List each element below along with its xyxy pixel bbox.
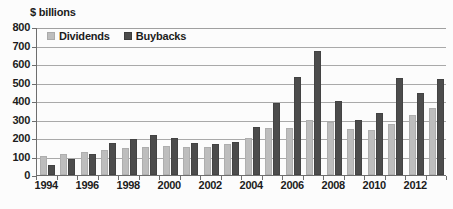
- plot-area: [36, 28, 446, 176]
- x-tick-label-2002: 2002: [194, 179, 226, 191]
- x-tick-mark-1995: [57, 176, 58, 180]
- x-tick-label-2010: 2010: [358, 179, 390, 191]
- bar-group-2006: [286, 28, 301, 175]
- bar-buybacks-2003: [232, 142, 239, 175]
- bar-buybacks-2007: [314, 51, 321, 175]
- y-axis-unit-label: $ billions: [30, 6, 76, 18]
- bar-buybacks-2013: [437, 79, 444, 175]
- y-tick-label-500: 500: [2, 77, 30, 89]
- legend-label-dividends: Dividends: [59, 30, 110, 42]
- y-tick-label-200: 200: [2, 132, 30, 144]
- x-tick-label-1998: 1998: [112, 179, 144, 191]
- x-tick-mark-1999: [139, 176, 140, 180]
- bar-buybacks-2002: [212, 144, 219, 175]
- bar-buybacks-1999: [150, 135, 157, 175]
- bar-group-2007: [306, 28, 321, 175]
- bar-buybacks-2006: [294, 77, 301, 175]
- bar-buybacks-2004: [253, 127, 260, 175]
- bar-dividends-2011: [388, 124, 395, 175]
- bar-buybacks-1994: [48, 165, 55, 175]
- legend-item-buybacks: Buybacks: [124, 30, 186, 42]
- y-tick-mark-500: [32, 84, 36, 85]
- bar-buybacks-2001: [191, 143, 198, 175]
- x-tick-mark-2013: [426, 176, 427, 180]
- y-tick-label-300: 300: [2, 114, 30, 126]
- y-tick-mark-700: [32, 47, 36, 48]
- x-tick-label-2000: 2000: [153, 179, 185, 191]
- bar-dividends-1999: [142, 147, 149, 175]
- bar-buybacks-1996: [89, 154, 96, 175]
- x-tick-label-2012: 2012: [399, 179, 431, 191]
- chart-root: $ billions 0100200300400500600700800 199…: [0, 0, 453, 209]
- bar-buybacks-2012: [417, 93, 424, 175]
- bar-buybacks-2000: [171, 138, 178, 175]
- bar-group-2004: [245, 28, 260, 175]
- bar-dividends-2007: [306, 120, 313, 176]
- y-tick-mark-100: [32, 158, 36, 159]
- bar-dividends-2006: [286, 128, 293, 175]
- bar-group-2001: [183, 28, 198, 175]
- bar-dividends-2008: [327, 122, 334, 175]
- bar-group-1995: [60, 28, 75, 175]
- bar-group-2010: [368, 28, 383, 175]
- bar-buybacks-1997: [109, 143, 116, 175]
- bar-group-1999: [142, 28, 157, 175]
- bar-dividends-2003: [224, 144, 231, 175]
- bar-dividends-1994: [40, 156, 47, 175]
- bar-group-2009: [347, 28, 362, 175]
- bar-group-2008: [327, 28, 342, 175]
- y-tick-label-600: 600: [2, 58, 30, 70]
- bar-group-1996: [81, 28, 96, 175]
- x-tick-label-2004: 2004: [235, 179, 267, 191]
- bar-dividends-1997: [101, 150, 108, 175]
- bar-dividends-2005: [265, 128, 272, 175]
- bar-buybacks-2011: [396, 78, 403, 175]
- bar-buybacks-2009: [355, 120, 362, 175]
- bar-dividends-2010: [368, 130, 375, 176]
- bar-group-1997: [101, 28, 116, 175]
- bar-group-2000: [163, 28, 178, 175]
- bar-dividends-1996: [81, 152, 88, 175]
- legend-item-dividends: Dividends: [47, 30, 110, 42]
- bar-group-2003: [224, 28, 239, 175]
- x-tick-mark-2001: [180, 176, 181, 180]
- bar-dividends-1995: [60, 154, 67, 175]
- x-tick-mark-2007: [303, 176, 304, 180]
- y-tick-mark-400: [32, 102, 36, 103]
- x-tick-mark-2011: [385, 176, 386, 180]
- bars-layer: [37, 28, 446, 175]
- bar-buybacks-1995: [68, 159, 75, 175]
- chart-legend: Dividends Buybacks: [44, 29, 189, 43]
- x-tick-label-1994: 1994: [30, 179, 62, 191]
- x-tick-mark-2003: [221, 176, 222, 180]
- y-tick-label-700: 700: [2, 40, 30, 52]
- bar-group-1994: [40, 28, 55, 175]
- bar-group-2012: [409, 28, 424, 175]
- bar-dividends-2000: [163, 146, 170, 175]
- bar-dividends-2004: [245, 138, 252, 175]
- bar-group-2013: [429, 28, 444, 175]
- bar-dividends-2009: [347, 129, 354, 175]
- bar-dividends-2012: [409, 115, 416, 175]
- y-tick-label-400: 400: [2, 95, 30, 107]
- x-tick-mark-end: [446, 176, 447, 180]
- x-tick-mark-2005: [262, 176, 263, 180]
- bar-buybacks-1998: [130, 139, 137, 175]
- legend-label-buybacks: Buybacks: [136, 30, 186, 42]
- y-tick-mark-300: [32, 121, 36, 122]
- bar-buybacks-2008: [335, 101, 342, 175]
- legend-swatch-dividends-icon: [47, 32, 55, 40]
- y-tick-mark-200: [32, 139, 36, 140]
- y-tick-label-800: 800: [2, 21, 30, 33]
- y-tick-mark-800: [32, 28, 36, 29]
- x-tick-mark-1997: [98, 176, 99, 180]
- x-tick-label-2006: 2006: [276, 179, 308, 191]
- bar-group-1998: [122, 28, 137, 175]
- bar-buybacks-2005: [273, 103, 280, 175]
- bar-group-2011: [388, 28, 403, 175]
- bar-dividends-2001: [183, 147, 190, 175]
- bar-group-2002: [204, 28, 219, 175]
- bar-group-2005: [265, 28, 280, 175]
- x-tick-label-1996: 1996: [71, 179, 103, 191]
- legend-swatch-buybacks-icon: [124, 32, 132, 40]
